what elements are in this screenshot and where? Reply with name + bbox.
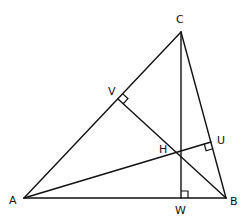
orthocenter-diagram: ABCVUWH (0, 0, 245, 219)
right-angle-mark-w (181, 191, 188, 198)
triangle-and-altitudes (24, 32, 226, 198)
label-point-h: H (159, 143, 167, 156)
label-point-c: C (176, 13, 184, 26)
label-point-v: V (108, 85, 116, 98)
label-point-w: W (175, 204, 186, 217)
segment-bv (118, 99, 226, 198)
segment-au (24, 142, 211, 198)
label-point-u: U (217, 134, 225, 147)
label-point-b: B (230, 195, 238, 208)
segment-ca (24, 32, 181, 198)
right-angle-mark-v (123, 94, 128, 104)
segment-bc (181, 32, 226, 198)
label-point-a: A (9, 194, 17, 207)
